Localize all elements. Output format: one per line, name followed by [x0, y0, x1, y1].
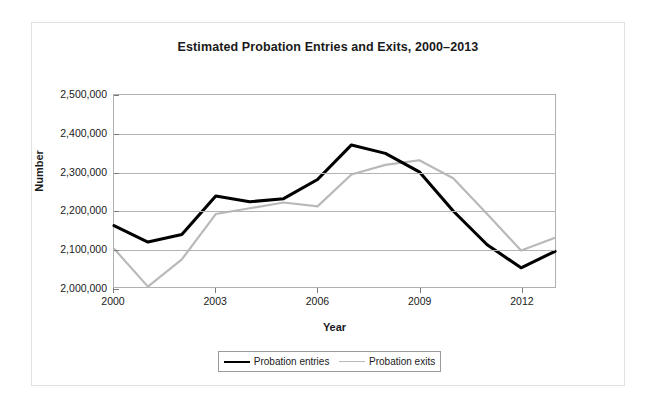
gridline	[114, 211, 555, 212]
chart-title: Estimated Probation Entries and Exits, 2…	[31, 40, 625, 54]
legend-swatch-icon-entries	[224, 361, 250, 363]
legend-label-exits: Probation exits	[369, 356, 435, 367]
x-tick-label: 2012	[492, 295, 552, 307]
x-tick-label: 2000	[83, 295, 143, 307]
y-tick-mark	[114, 95, 119, 96]
series-lines	[114, 95, 555, 287]
x-tick-label: 2006	[287, 295, 347, 307]
chart-legend: Probation entries Probation exits	[218, 351, 441, 372]
y-tick-mark	[114, 211, 119, 212]
x-tick-label: 2009	[390, 295, 450, 307]
x-axis-title: Year	[113, 321, 556, 333]
chart-figure: Estimated Probation Entries and Exits, 2…	[0, 0, 655, 408]
y-axis-tick-labels: 2,500,0002,400,0002,300,0002,200,0002,10…	[43, 94, 107, 288]
y-tick-label: 2,200,000	[45, 204, 107, 216]
y-tick-label: 2,500,000	[45, 88, 107, 100]
series-line-probation-exits	[114, 160, 555, 286]
legend-label-entries: Probation entries	[254, 356, 330, 367]
y-tick-label: 2,100,000	[45, 243, 107, 255]
plot-area	[113, 94, 556, 288]
legend-item-probation-exits: Probation exits	[339, 356, 435, 367]
x-tick-mark	[420, 288, 421, 293]
y-tick-mark	[114, 173, 119, 174]
legend-swatch-icon-exits	[339, 361, 365, 362]
x-tick-mark	[522, 288, 523, 293]
x-tick-mark	[317, 288, 318, 293]
gridline	[114, 250, 555, 251]
gridline	[114, 173, 555, 174]
x-tick-mark	[215, 288, 216, 293]
legend-item-probation-entries: Probation entries	[224, 356, 330, 367]
y-tick-mark	[114, 250, 119, 251]
x-tick-mark	[113, 288, 114, 293]
x-tick-label: 2003	[185, 295, 245, 307]
gridline	[114, 134, 555, 135]
y-tick-label: 2,000,000	[45, 282, 107, 294]
x-axis-tick-marks	[113, 288, 556, 294]
y-tick-label: 2,400,000	[45, 127, 107, 139]
x-axis-tick-labels: 20002003200620092012	[113, 295, 556, 311]
y-tick-label: 2,300,000	[45, 166, 107, 178]
y-tick-mark	[114, 134, 119, 135]
